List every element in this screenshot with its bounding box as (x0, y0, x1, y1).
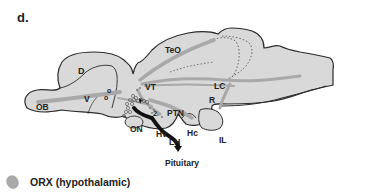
label-ON: ON (130, 124, 143, 134)
label-Hv: Hv (156, 129, 167, 139)
label-V: V (84, 94, 90, 104)
label-2: 2 (153, 109, 157, 118)
label-OB: OB (36, 102, 49, 112)
label-LH: LH (169, 137, 180, 147)
label-pituitary: Pituitary (165, 158, 199, 168)
label-R: R (209, 95, 215, 105)
label-o2: o (104, 94, 108, 101)
label-D: D (78, 66, 85, 76)
inferior-lobe (199, 109, 223, 131)
legend-label: ORX (hypothalamic) (30, 176, 130, 188)
label-o1: o (107, 87, 111, 94)
label-TeO: TeO (165, 45, 181, 55)
label-Hc: Hc (187, 128, 198, 138)
legend: ORX (hypothalamic) (4, 175, 130, 189)
orx-legend-swatch-icon (4, 175, 21, 189)
label-PTN: PTN (167, 108, 184, 118)
label-LC: LC (214, 81, 225, 91)
label-VT: VT (145, 82, 157, 92)
brain-diagram: OB D V o o TeO VT LC R 2 PTN ON Hv Hc LH… (0, 0, 387, 192)
label-IL: IL (219, 135, 227, 145)
